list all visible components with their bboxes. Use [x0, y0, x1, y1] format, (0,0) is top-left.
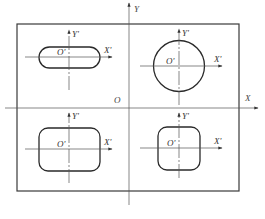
local-system-rounded-rect: X' Y' O': [25, 111, 112, 183]
coordinate-diagram: X Y O X' Y' O' X' Y' O' X' Y' O' X' Y' O…: [0, 0, 265, 219]
main-y-label: Y: [134, 4, 140, 14]
rounded-rect-x-label: X': [103, 137, 112, 147]
main-x-label: X: [244, 93, 251, 103]
rounded-rect-shape: [39, 128, 100, 171]
circle-origin-label: O': [166, 56, 175, 66]
local-system-slot: X' Y' O': [25, 29, 112, 90]
slot-x-label: X': [103, 45, 112, 55]
slot-y-label: Y': [72, 29, 80, 39]
circle-x-label: X': [213, 54, 222, 64]
main-coordinate-system: X Y O: [5, 3, 258, 205]
circle-y-label: Y': [182, 28, 190, 38]
rounded-square-y-label: Y': [182, 111, 190, 121]
slot-shape: [39, 47, 100, 68]
rounded-square-x-label: X': [213, 136, 222, 146]
workpiece-outline: [17, 24, 239, 191]
main-origin-label: O: [114, 95, 121, 105]
local-system-rounded-square: X' Y' O': [140, 111, 222, 178]
rounded-square-origin-label: O': [167, 138, 176, 148]
rounded-rect-origin-label: O': [57, 139, 66, 149]
rounded-rect-y-label: Y': [72, 111, 80, 121]
slot-origin-label: O': [57, 47, 66, 57]
local-system-circle: X' Y' O': [140, 28, 222, 105]
